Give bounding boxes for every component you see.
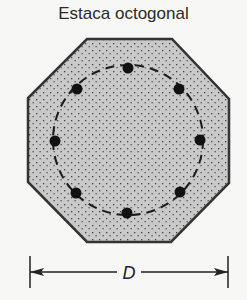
rebar-dot xyxy=(122,208,133,219)
pile-section-diagram: D xyxy=(0,0,247,300)
dimension-label-d: D xyxy=(123,263,136,283)
rebar-dot xyxy=(72,84,83,95)
rebar-dot xyxy=(195,135,206,146)
dimension-line: D xyxy=(30,256,228,288)
rebar-dot xyxy=(175,187,186,198)
rebar-dot xyxy=(50,136,61,147)
rebar-dot xyxy=(123,63,134,74)
rebar-dot xyxy=(174,84,185,95)
rebar-dot xyxy=(71,188,82,199)
